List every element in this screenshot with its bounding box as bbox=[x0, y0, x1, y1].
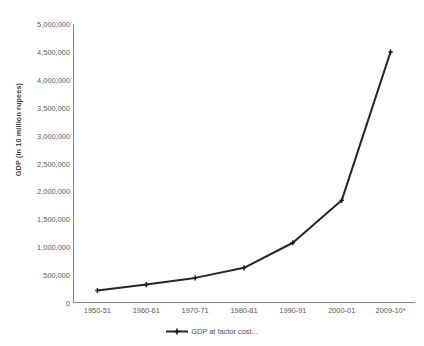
legend-entry[interactable]: GDP at factor cost... bbox=[166, 327, 257, 336]
data-point-marker bbox=[193, 275, 197, 280]
y-tick-label: 3,500,000 bbox=[8, 103, 70, 112]
x-tick-label: 1980-81 bbox=[230, 306, 257, 315]
legend-line-marker-icon bbox=[166, 327, 188, 336]
data-point-marker bbox=[144, 282, 148, 287]
data-point-marker bbox=[95, 288, 99, 293]
y-tick-label: 5,000,000 bbox=[8, 20, 70, 29]
y-tick-label: 3,000,000 bbox=[8, 131, 70, 140]
x-tick-label: 2000-01 bbox=[328, 306, 355, 315]
chart-legend: GDP at factor cost... bbox=[0, 327, 424, 336]
x-axis-tick-labels: 1950-511960-611970-711980-811990-912000-… bbox=[73, 306, 415, 322]
y-tick-label: 1,000,000 bbox=[8, 243, 70, 252]
y-tick-label: 500,000 bbox=[8, 271, 70, 280]
x-tick-label: 1990-91 bbox=[279, 306, 306, 315]
y-tick-label: 2,000,000 bbox=[8, 187, 70, 196]
x-tick-label: 1960-61 bbox=[133, 306, 160, 315]
gdp-line-chart: GDP (in 10 million rupees) 0500,0001,000… bbox=[0, 0, 424, 346]
y-tick-label: 1,500,000 bbox=[8, 215, 70, 224]
series-line-layer bbox=[73, 24, 415, 303]
y-axis-tick-labels: 0500,0001,000,0001,500,0002,000,0002,500… bbox=[8, 0, 70, 346]
x-tick-label: 1970-71 bbox=[182, 306, 209, 315]
series-line bbox=[97, 52, 390, 291]
plot-area bbox=[73, 24, 415, 303]
y-tick-label: 2,500,000 bbox=[8, 159, 70, 168]
y-tick-label: 0 bbox=[8, 299, 70, 308]
y-tick-label: 4,000,000 bbox=[8, 75, 70, 84]
x-tick-label: 2009-10* bbox=[376, 306, 406, 315]
y-tick-label: 4,500,000 bbox=[8, 47, 70, 56]
x-tick-label: 1950-51 bbox=[84, 306, 111, 315]
legend-label: GDP at factor cost... bbox=[191, 327, 257, 336]
